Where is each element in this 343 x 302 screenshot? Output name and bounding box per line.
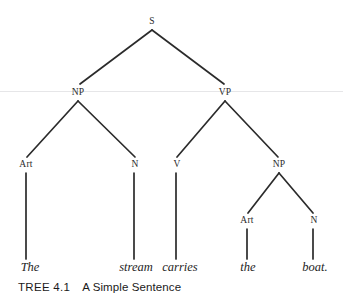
node-label-s: S [149,16,154,26]
node-label-n-boat: N [310,215,317,225]
figure-caption: TREE 4.1 A Simple Sentence [18,281,181,293]
tree-edge-s-to-np [80,30,152,84]
tree-edge-s-to-vp [152,30,224,84]
tree-branch-lines [0,0,343,302]
caption-tag: TREE 4.1 [18,281,70,293]
tree-edge-vp-to-np [225,101,278,157]
terminal-word-3: the [240,260,255,275]
tree-edge-vp-to-v [177,101,225,157]
tree-edge-np-to-n [78,101,135,157]
terminal-word-0: The [21,260,40,275]
terminal-word-2: carries [162,260,197,275]
node-label-art-the-upper: Art [19,159,32,169]
syntax-tree-figure: SNPVPArtNVNPArtN Thestreamcarriestheboat… [0,0,343,302]
tree-edge-npobj-to-art [248,173,279,213]
node-label-v-carries: V [173,159,180,169]
tree-edge-npobj-to-n [279,173,313,213]
node-label-art-the-lower: Art [240,215,253,225]
node-label-vp: VP [219,87,232,97]
terminal-word-4: boat. [302,260,327,275]
node-label-np-object: NP [273,159,286,169]
node-label-np-subject: NP [72,87,85,97]
caption-title: A Simple Sentence [82,281,181,293]
node-label-n-stream: N [131,159,138,169]
tree-edge-np-to-art [27,101,78,157]
terminal-word-1: stream [119,260,153,275]
